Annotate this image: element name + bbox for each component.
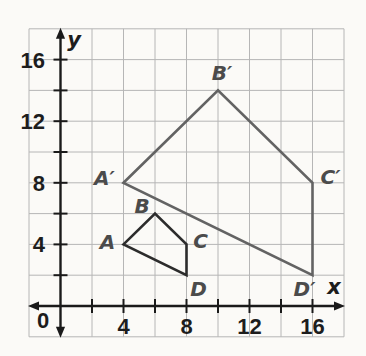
coordinate-plane: 4812164812160yxABCDA′B′C′D′ <box>0 0 366 356</box>
vertex-label-c-prime: C′ <box>321 165 342 189</box>
y-axis-label: y <box>67 28 82 52</box>
x-axis-tick-label: 4 <box>117 314 130 339</box>
plot-background <box>0 0 366 356</box>
y-axis-tick-label: 8 <box>33 171 45 196</box>
vertex-label-a-prime: A′ <box>92 166 115 190</box>
vertex-label-c: C <box>193 229 208 253</box>
graph-figure: 4812164812160yxABCDA′B′C′D′ <box>0 0 366 356</box>
x-axis-tick-label: 8 <box>180 314 192 339</box>
vertex-label-d-prime: D′ <box>294 277 317 301</box>
vertex-label-b-prime: B′ <box>212 61 233 85</box>
y-axis-tick-label: 12 <box>21 109 45 134</box>
x-axis-label: x <box>326 275 342 299</box>
y-axis-tick-label: 4 <box>33 232 46 257</box>
vertex-label-b: B <box>134 194 149 218</box>
origin-label: 0 <box>37 308 49 333</box>
vertex-label-a: A <box>98 230 115 254</box>
x-axis-tick-label: 16 <box>300 314 324 339</box>
x-axis-tick-label: 12 <box>237 314 261 339</box>
vertex-label-d: D <box>190 277 207 301</box>
y-axis-tick-label: 16 <box>21 48 45 73</box>
